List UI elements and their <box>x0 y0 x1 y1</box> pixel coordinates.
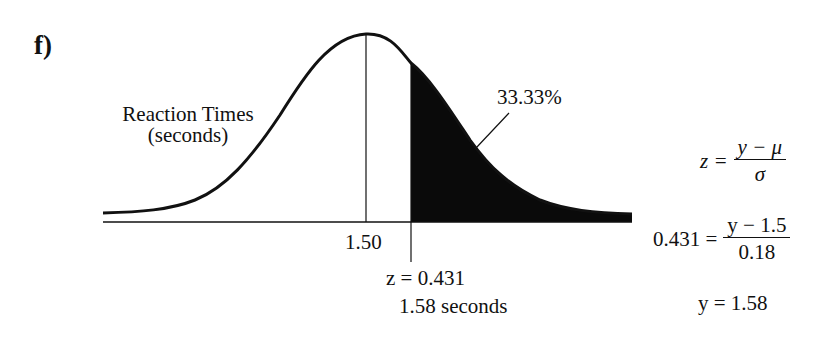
formula-numerator: y − μ <box>734 136 787 160</box>
cutoff-value-label: 1.58 seconds <box>399 295 508 317</box>
percent-pointer <box>476 113 509 148</box>
shaded-area-label: 33.33% <box>497 86 562 108</box>
cutoff-z-label: z = 0.431 <box>386 267 465 289</box>
formula-fraction: y − μ σ <box>734 136 787 186</box>
substituted-numerator: y − 1.5 <box>723 214 790 238</box>
curve-title-line1: Reaction Times <box>104 104 272 125</box>
formula-denominator: σ <box>755 160 765 186</box>
curve-title-line2: (seconds) <box>104 125 272 146</box>
substituted-fraction: y − 1.5 0.18 <box>723 214 790 264</box>
formula-lhs: z = <box>700 149 728 174</box>
result-text: y = 1.58 <box>698 291 768 316</box>
mean-tick-label: 1.50 <box>345 231 382 253</box>
substituted-lhs: 0.431 = <box>653 227 717 252</box>
result-equation: y = 1.58 <box>698 291 768 316</box>
cutoff-z-text: z = 0.431 <box>386 266 465 290</box>
formula-equation: z = y − μ σ <box>700 136 786 186</box>
substituted-denominator: 0.18 <box>739 238 776 264</box>
curve-title: Reaction Times (seconds) <box>104 104 272 146</box>
substituted-equation: 0.431 = y − 1.5 0.18 <box>653 214 790 264</box>
